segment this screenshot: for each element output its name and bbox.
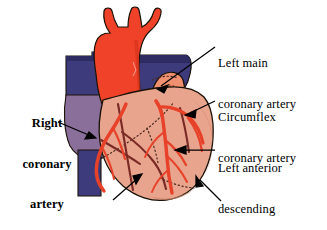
label-left-ventricle: Left ventricle xyxy=(222,203,295,230)
label-line: coronary xyxy=(8,158,86,172)
label-line: Left main xyxy=(218,57,296,71)
label-line: Left anterior xyxy=(218,162,296,176)
label-right-ventricle: Right ventricle xyxy=(32,203,113,230)
label-line: Circumflex xyxy=(218,111,296,125)
label-line: Right xyxy=(8,117,86,131)
heart-coronary-anatomy-figure: Left main coronary artery Circumflex cor… xyxy=(0,0,327,230)
